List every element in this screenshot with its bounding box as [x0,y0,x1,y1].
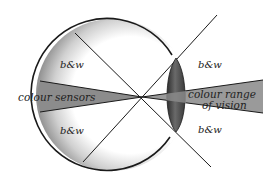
label-bw-lower-right: b&w [198,124,222,135]
label-bw-lower-left: b&w [60,125,84,136]
label-colour-sensors: colour sensors [18,91,96,103]
label-bw-upper-left: b&w [60,59,84,70]
label-colour-range-line2: of vision [202,99,247,111]
eye-diagram: b&w b&w b&w b&w colour sensors colour ra… [0,0,272,183]
label-bw-upper-right: b&w [198,59,222,70]
